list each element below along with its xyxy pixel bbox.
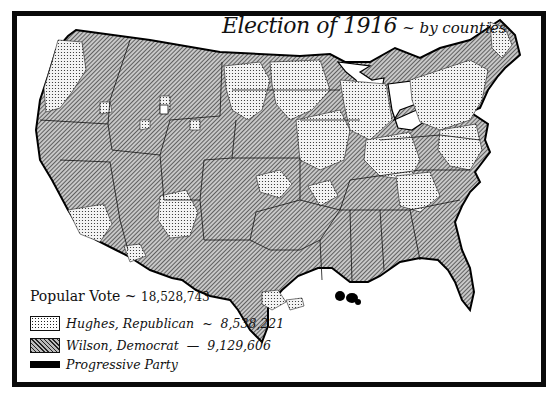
- solid-swatch-icon: [30, 361, 60, 368]
- legend-entry-value: 9,129,606: [207, 338, 271, 353]
- title-main: Election of 1916: [222, 13, 397, 38]
- legend-entry-label: Hughes, Republican: [66, 316, 194, 331]
- map-title: Election of 1916 ~ by counties: [222, 13, 507, 38]
- legend-entry-sep: ~: [202, 316, 212, 331]
- legend-entry-democrat: Wilson, Democrat — 9,129,606: [30, 334, 284, 356]
- legend-entry-sep: —: [187, 338, 200, 353]
- legend-header-sep: ~: [125, 288, 137, 304]
- legend-header-label: Popular Vote: [30, 288, 120, 304]
- hatch-swatch-icon: [30, 338, 60, 353]
- legend: Popular Vote ~ 18,528,743 Hughes, Republ…: [30, 288, 284, 372]
- legend-entry-label: Wilson, Democrat: [66, 338, 179, 353]
- legend-entry-label: Progressive Party: [66, 357, 178, 372]
- title-subtitle: ~ by counties: [402, 19, 506, 37]
- no-data-county: [160, 105, 168, 114]
- legend-entry-value: 8,538,221: [221, 316, 285, 331]
- legend-entry-republican: Hughes, Republican ~ 8,538,221: [30, 312, 284, 334]
- progressive-counties: [335, 291, 361, 305]
- legend-header-value: 18,528,743: [141, 290, 210, 304]
- legend-entry-progressive: Progressive Party: [30, 356, 284, 372]
- dotted-swatch-icon: [30, 316, 60, 331]
- legend-header: Popular Vote ~ 18,528,743: [30, 288, 284, 304]
